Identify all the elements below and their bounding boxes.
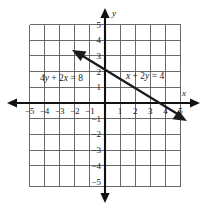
equation-label-left: 4y + 2x = 8: [40, 73, 83, 83]
x-tick-label: 2: [133, 106, 138, 116]
x-tick-label: −5: [25, 106, 35, 116]
y-tick-label: −4: [91, 161, 101, 171]
y-tick-label: 4: [97, 35, 102, 45]
y-tick-label: −5: [91, 177, 101, 187]
eq-left-part: + 2: [49, 73, 64, 83]
x-tick-label: −2: [70, 106, 80, 116]
y-tick-label: −2: [91, 129, 101, 139]
equation-label-right: x + 2y = 4: [125, 71, 164, 81]
x-tick-label: 3: [148, 106, 153, 116]
y-axis-label: y: [111, 8, 116, 18]
y-tick-label: 3: [97, 51, 102, 61]
eq-left-part: = 8: [68, 73, 83, 83]
x-axis-label: x: [181, 88, 186, 98]
y-tick-label: −3: [91, 145, 101, 155]
y-tick-label: 5: [97, 20, 102, 30]
x-tick-label: 1: [118, 106, 123, 116]
x-tick-label: −4: [40, 106, 50, 116]
coordinate-plane-figure: x y −5 −4 −3 −2 −1 1 2 3 4 5 5 4 3 2 1 −…: [0, 0, 203, 211]
y-tick-label: 1: [97, 82, 102, 92]
y-tick-label: −1: [91, 114, 101, 124]
graph-canvas: x y −5 −4 −3 −2 −1 1 2 3 4 5 5 4 3 2 1 −…: [0, 0, 203, 211]
eq-right-part: = 4: [149, 71, 164, 81]
eq-right-part: + 2: [130, 71, 145, 81]
x-tick-label: −3: [55, 106, 65, 116]
